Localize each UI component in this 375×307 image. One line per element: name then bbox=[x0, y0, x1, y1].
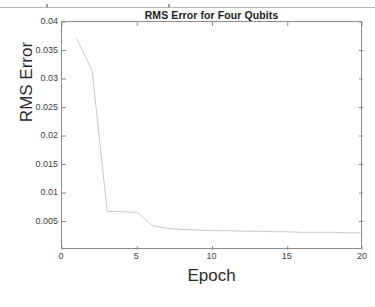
chart-title: RMS Error for Four Qubits bbox=[61, 9, 362, 21]
x-tick-label: 15 bbox=[282, 251, 292, 261]
plot-svg bbox=[62, 22, 363, 250]
x-axis-label: Epoch bbox=[61, 266, 362, 286]
page-rule-tick-center bbox=[168, 4, 170, 8]
rms-error-line bbox=[77, 39, 363, 233]
chart-figure: RMS Error for Four Qubits 0.0050.010.015… bbox=[0, 10, 375, 307]
page-horizontal-rule bbox=[0, 7, 375, 8]
x-tick-label: 10 bbox=[206, 251, 216, 261]
plot-area bbox=[61, 21, 362, 249]
y-axis-label: RMS Error bbox=[17, 2, 37, 162]
y-tick-label: 0.005 bbox=[0, 216, 58, 226]
page-rule-tick-left bbox=[46, 4, 48, 8]
x-tick-label: 20 bbox=[357, 251, 367, 261]
x-axis-tick-labels: 05101520 bbox=[61, 251, 362, 265]
axis-tick-marks bbox=[62, 22, 363, 250]
x-tick-label: 5 bbox=[134, 251, 139, 261]
y-tick-label: 0.01 bbox=[0, 187, 58, 197]
x-tick-label: 0 bbox=[58, 251, 63, 261]
